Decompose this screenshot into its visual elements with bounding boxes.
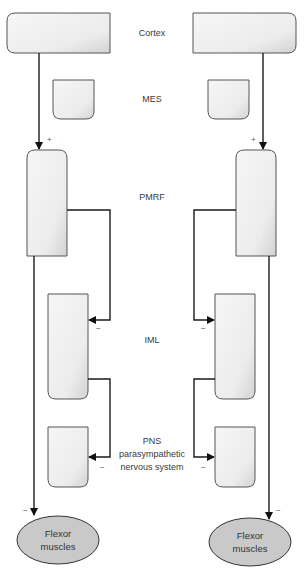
excitatory-sign-pmrf-right: + xyxy=(251,135,256,144)
label-pns: PNS xyxy=(143,436,162,446)
label-pns-nervous-system: nervous system xyxy=(120,462,183,472)
label-pns-parasympathetic: parasympathetic xyxy=(119,449,186,459)
center-labels: Cortex MES PMRF IML PNS parasympathetic … xyxy=(119,28,186,472)
cortex-box-left xyxy=(7,13,110,53)
inhibitory-sign-pns-right: − xyxy=(201,463,206,472)
label-iml: IML xyxy=(144,335,159,345)
inhibitory-sign-iml-right: − xyxy=(201,324,206,333)
inhibitory-sign-iml-left: − xyxy=(96,324,101,333)
pns-box-right xyxy=(215,427,255,487)
flexor-label-left-line2: muscles xyxy=(41,541,76,552)
mes-box-right xyxy=(208,80,249,119)
label-cortex: Cortex xyxy=(139,28,166,38)
cortex-box-right xyxy=(193,13,296,53)
neural-pathway-diagram: Flexor muscles + − − − Flexor muscles + … xyxy=(0,0,305,568)
pns-box-left xyxy=(48,427,88,487)
iml-box-left xyxy=(48,294,88,399)
inhibitory-sign-flexor-left: − xyxy=(23,506,28,515)
flexor-muscles-left xyxy=(17,516,99,564)
left-pathway: Flexor muscles + − − − xyxy=(7,13,110,564)
inhibitory-sign-flexor-right: − xyxy=(276,506,281,515)
iml-to-pns-wire-left xyxy=(88,379,110,457)
flexor-label-right-line2: muscles xyxy=(233,543,268,554)
right-pathway: Flexor muscles + − − − xyxy=(193,13,296,566)
pmrf-box-right xyxy=(236,150,276,256)
label-mes: MES xyxy=(142,94,162,104)
pmrf-box-left xyxy=(27,150,67,256)
mes-box-left xyxy=(53,80,94,119)
inhibitory-sign-pns-left: − xyxy=(100,463,105,472)
label-pmrf: PMRF xyxy=(139,192,165,202)
excitatory-sign-pmrf-left: + xyxy=(47,135,52,144)
flexor-muscles-right xyxy=(209,518,291,566)
iml-to-pns-wire-right xyxy=(194,379,215,457)
flexor-label-left-line1: Flexor xyxy=(45,528,71,539)
flexor-label-right-line1: Flexor xyxy=(237,530,263,541)
iml-box-right xyxy=(215,294,255,399)
